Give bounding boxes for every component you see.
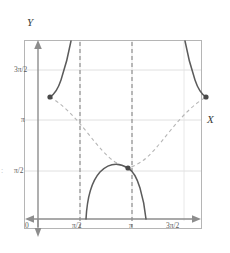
x-tick-label-3pi-2: 3π/2 bbox=[166, 221, 179, 230]
x-tick-label-pi-2: π/2 bbox=[72, 221, 82, 230]
plot-canvas bbox=[0, 0, 230, 253]
marked-point-right[interactable] bbox=[203, 94, 208, 99]
plot-frame bbox=[25, 41, 202, 229]
x-tick-label-pi: π bbox=[129, 221, 133, 230]
y-tick-label-pi: π bbox=[21, 115, 25, 124]
y-axis-label: Y bbox=[27, 16, 33, 28]
marked-point-left[interactable] bbox=[47, 94, 52, 99]
x-tick-label-0: 0 bbox=[25, 221, 29, 230]
y-tick-label-3pi-2: 3π/2 bbox=[14, 65, 27, 74]
marked-point-center[interactable] bbox=[125, 165, 130, 170]
y-tick-label-pi-2: π/2 bbox=[14, 166, 24, 175]
math-graph-figure: Y X : bbox=[0, 0, 230, 253]
x-axis-label: X bbox=[207, 113, 214, 125]
stray-mark: : bbox=[1, 166, 3, 175]
